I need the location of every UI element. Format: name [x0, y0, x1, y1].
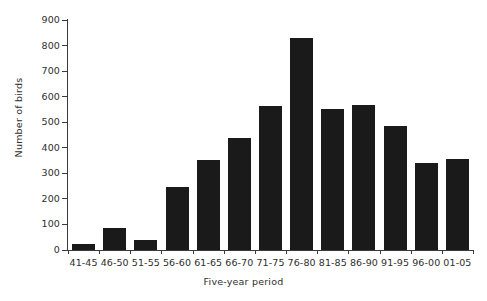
x-tick-mark: [442, 250, 443, 254]
x-tick-label: 51-55: [130, 258, 161, 268]
x-tick-label: 86-90: [348, 258, 379, 268]
y-tick-mark: [62, 71, 68, 72]
bar: [134, 240, 157, 250]
y-tick-mark: [62, 96, 68, 97]
x-tick-mark: [317, 250, 318, 254]
bar: [166, 187, 189, 250]
y-tick-label: 0: [14, 245, 60, 255]
bar: [197, 160, 220, 250]
x-tick-mark: [99, 250, 100, 254]
x-tick-mark: [411, 250, 412, 254]
bar: [352, 105, 375, 250]
x-tick-mark: [348, 250, 349, 254]
y-tick-label: 100: [14, 219, 60, 229]
y-tick-label: 200: [14, 194, 60, 204]
bar: [415, 163, 438, 250]
x-tick-label: 96-00: [411, 258, 442, 268]
y-tick-mark: [62, 173, 68, 174]
x-tick-mark: [68, 250, 69, 254]
y-tick-label: 800: [14, 41, 60, 51]
x-tick-label: 41-45: [68, 258, 99, 268]
x-tick-label: 91-95: [380, 258, 411, 268]
x-tick-label: 61-65: [193, 258, 224, 268]
x-tick-mark: [193, 250, 194, 254]
x-tick-mark: [161, 250, 162, 254]
x-tick-label: 71-75: [255, 258, 286, 268]
y-tick-mark: [62, 45, 68, 46]
y-axis-line: [67, 19, 68, 251]
y-axis-title: Number of birds: [13, 58, 24, 178]
bar: [259, 106, 282, 250]
y-tick-label: 900: [14, 15, 60, 25]
bar: [228, 138, 251, 250]
y-tick-mark: [62, 122, 68, 123]
x-tick-mark: [224, 250, 225, 254]
bar: [446, 159, 469, 250]
bar: [384, 126, 407, 250]
x-tick-mark: [286, 250, 287, 254]
x-tick-mark: [255, 250, 256, 254]
bar: [290, 38, 313, 250]
y-tick-mark: [62, 224, 68, 225]
x-tick-label: 56-60: [161, 258, 192, 268]
x-tick-label: 81-85: [317, 258, 348, 268]
bar: [72, 244, 95, 250]
bar: [321, 109, 344, 250]
x-axis-title: Five-year period: [0, 276, 487, 287]
y-tick-mark: [62, 198, 68, 199]
x-tick-label: 46-50: [99, 258, 130, 268]
x-axis-line: [67, 250, 474, 251]
y-tick-mark: [62, 147, 68, 148]
x-tick-mark: [380, 250, 381, 254]
x-tick-label: 76-80: [286, 258, 317, 268]
y-tick-mark: [62, 20, 68, 21]
x-tick-mark: [473, 250, 474, 254]
x-tick-mark: [130, 250, 131, 254]
x-tick-label: 01-05: [442, 258, 473, 268]
bar-chart-figure: 9008007006005004003002001000 41-4546-505…: [0, 0, 487, 301]
bar: [103, 228, 126, 250]
x-tick-label: 66-70: [224, 258, 255, 268]
